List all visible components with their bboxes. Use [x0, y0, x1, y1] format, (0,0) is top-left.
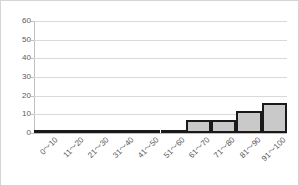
plot-area	[34, 21, 287, 133]
bar-slot	[186, 21, 211, 133]
bar-slot	[211, 21, 236, 133]
y-axis-tick-label: 30	[3, 73, 31, 81]
bar-slot	[262, 21, 287, 133]
bar-slot	[85, 21, 110, 133]
y-axis-tick-labels: 6050403020100	[1, 1, 31, 186]
bar[interactable]	[135, 130, 160, 133]
bar[interactable]	[186, 120, 211, 133]
y-axis-tick-label: 10	[3, 110, 31, 118]
bar[interactable]	[262, 103, 287, 133]
x-axis-tick-labels: 0～1011～2021～3031～4041～5051～6061～7071～808…	[34, 134, 287, 186]
y-axis-tick-label: 0	[3, 129, 31, 137]
bar[interactable]	[34, 130, 59, 133]
bar[interactable]	[236, 111, 261, 133]
bar-slot	[236, 21, 261, 133]
bar[interactable]	[110, 130, 135, 133]
chart-container: 6050403020100 0～1011～2021～3031～4041～5051…	[0, 0, 299, 186]
bar-slot	[135, 21, 160, 133]
bar[interactable]	[85, 130, 110, 133]
y-axis-tick-label: 40	[3, 54, 31, 62]
bar[interactable]	[59, 130, 84, 133]
bar-slot	[34, 21, 59, 133]
bar-slot	[161, 21, 186, 133]
bar[interactable]	[211, 120, 236, 133]
y-axis-tick-label: 50	[3, 36, 31, 44]
y-axis-tick-label: 20	[3, 92, 31, 100]
y-axis-tick-label: 60	[3, 17, 31, 25]
bar-slot	[59, 21, 84, 133]
bar-slot	[110, 21, 135, 133]
bar[interactable]	[161, 130, 186, 133]
